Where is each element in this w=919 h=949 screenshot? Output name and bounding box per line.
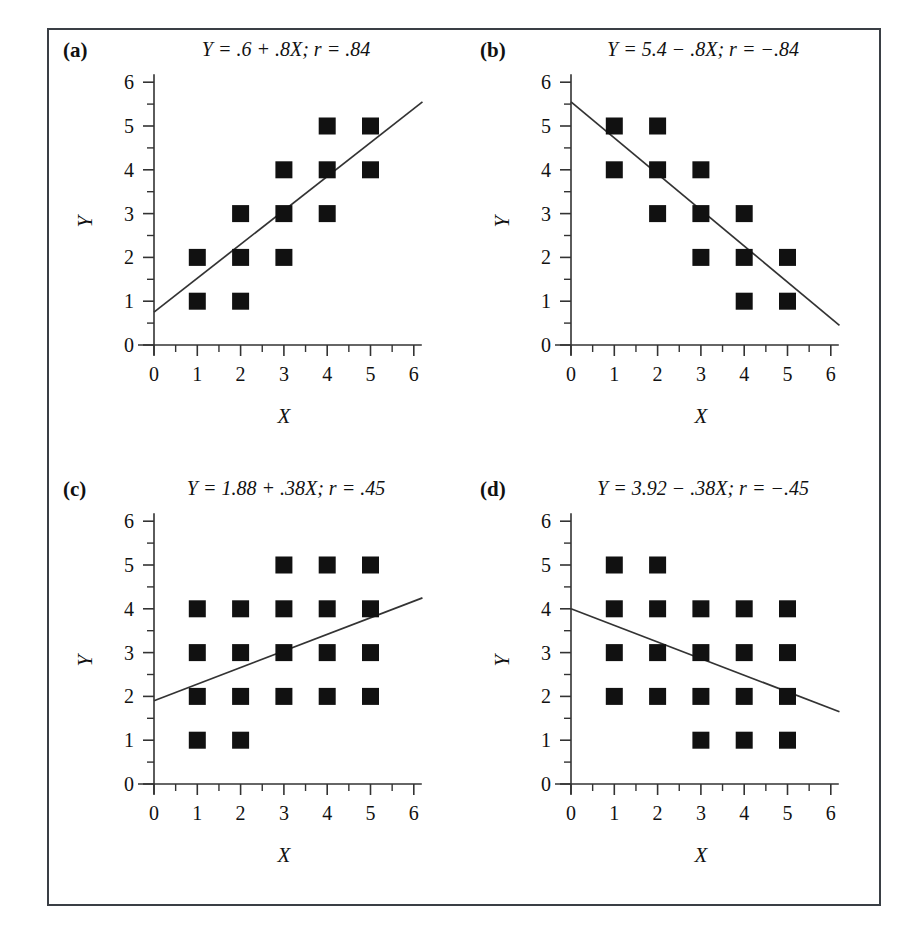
x-tick-label: 5 — [366, 363, 376, 385]
y-tick-label: 5 — [124, 554, 134, 576]
y-axis-label: Y — [73, 213, 97, 227]
data-point-marker — [736, 600, 753, 617]
x-tick-label: 3 — [279, 363, 289, 385]
y-tick-label: 6 — [541, 71, 551, 93]
data-point-marker — [319, 205, 336, 222]
x-tick-label: 4 — [322, 363, 332, 385]
y-axis-label: Y — [490, 213, 514, 227]
y-tick-label: 6 — [124, 71, 134, 93]
y-tick-label: 3 — [124, 642, 134, 664]
data-point-marker — [189, 732, 206, 749]
x-axis-label: X — [276, 843, 291, 867]
data-point-marker — [736, 732, 753, 749]
data-point-marker — [362, 161, 379, 178]
x-tick-label: 2 — [653, 363, 663, 385]
data-point-marker — [692, 249, 709, 266]
y-tick-label: 3 — [541, 203, 551, 225]
x-tick-label: 1 — [192, 363, 202, 385]
y-axis-label: Y — [490, 652, 514, 666]
y-tick-label: 5 — [541, 115, 551, 137]
data-point-marker — [275, 249, 292, 266]
x-tick-label: 0 — [566, 363, 576, 385]
data-point-marker — [232, 205, 249, 222]
data-point-marker — [232, 644, 249, 661]
x-tick-label: 5 — [366, 802, 376, 824]
x-tick-label: 1 — [192, 802, 202, 824]
y-tick-label: 3 — [541, 642, 551, 664]
x-tick-label: 4 — [322, 802, 332, 824]
x-tick-label: 6 — [826, 802, 836, 824]
data-point-marker — [779, 293, 796, 310]
data-point-marker — [232, 688, 249, 705]
data-point-marker — [189, 293, 206, 310]
data-point-marker — [779, 688, 796, 705]
panel-c-plot: 01234560123456XY — [49, 469, 466, 908]
data-point-marker — [319, 118, 336, 135]
data-point-marker — [362, 688, 379, 705]
data-point-marker — [692, 688, 709, 705]
data-point-marker — [606, 600, 623, 617]
data-point-marker — [275, 644, 292, 661]
data-point-marker — [232, 732, 249, 749]
data-point-marker — [319, 600, 336, 617]
data-point-marker — [362, 644, 379, 661]
data-point-marker — [275, 557, 292, 574]
data-point-marker — [232, 293, 249, 310]
data-point-marker — [362, 600, 379, 617]
data-point-marker — [692, 732, 709, 749]
panel-a-plot: 01234560123456XY — [49, 30, 466, 469]
y-tick-label: 2 — [124, 246, 134, 268]
x-tick-label: 4 — [739, 802, 749, 824]
x-tick-label: 4 — [739, 363, 749, 385]
data-point-marker — [606, 688, 623, 705]
data-point-marker — [649, 118, 666, 135]
x-tick-label: 2 — [653, 802, 663, 824]
y-axis-label: Y — [73, 652, 97, 666]
x-tick-label: 6 — [826, 363, 836, 385]
panel-b-plot: 01234560123456XY — [466, 30, 883, 469]
y-tick-label: 4 — [541, 159, 551, 181]
y-tick-label: 0 — [541, 773, 551, 795]
y-tick-label: 5 — [124, 115, 134, 137]
data-point-marker — [692, 644, 709, 661]
data-point-marker — [606, 644, 623, 661]
x-tick-label: 0 — [149, 802, 159, 824]
data-point-marker — [362, 118, 379, 135]
data-point-marker — [319, 557, 336, 574]
data-point-marker — [649, 600, 666, 617]
data-point-marker — [606, 161, 623, 178]
data-point-marker — [275, 161, 292, 178]
y-tick-label: 2 — [541, 246, 551, 268]
data-point-marker — [692, 205, 709, 222]
x-tick-label: 0 — [149, 363, 159, 385]
data-point-marker — [779, 644, 796, 661]
panel-b: (b) Y = 5.4 − .8X; r = −.84 012345601234… — [466, 30, 883, 469]
y-tick-label: 1 — [541, 290, 551, 312]
y-tick-label: 1 — [124, 290, 134, 312]
y-tick-label: 0 — [124, 773, 134, 795]
x-tick-label: 3 — [279, 802, 289, 824]
data-point-marker — [319, 644, 336, 661]
x-axis-label: X — [693, 843, 708, 867]
y-tick-label: 1 — [541, 729, 551, 751]
data-point-marker — [275, 600, 292, 617]
y-tick-label: 0 — [124, 334, 134, 356]
x-tick-label: 2 — [236, 363, 246, 385]
y-tick-label: 6 — [541, 510, 551, 532]
data-point-marker — [275, 205, 292, 222]
data-point-marker — [189, 249, 206, 266]
data-point-marker — [736, 644, 753, 661]
figure-border: (a) Y = .6 + .8X; r = .84 01234560123456… — [47, 28, 881, 906]
y-tick-label: 1 — [124, 729, 134, 751]
data-point-marker — [692, 161, 709, 178]
x-tick-label: 0 — [566, 802, 576, 824]
x-tick-label: 1 — [609, 363, 619, 385]
data-point-marker — [606, 557, 623, 574]
data-point-marker — [779, 732, 796, 749]
data-point-marker — [692, 600, 709, 617]
data-point-marker — [649, 205, 666, 222]
data-point-marker — [736, 688, 753, 705]
panel-d: (d) Y = 3.92 − .38X; r = −.45 0123456012… — [466, 469, 883, 908]
panel-a: (a) Y = .6 + .8X; r = .84 01234560123456… — [49, 30, 466, 469]
y-tick-label: 4 — [124, 159, 134, 181]
